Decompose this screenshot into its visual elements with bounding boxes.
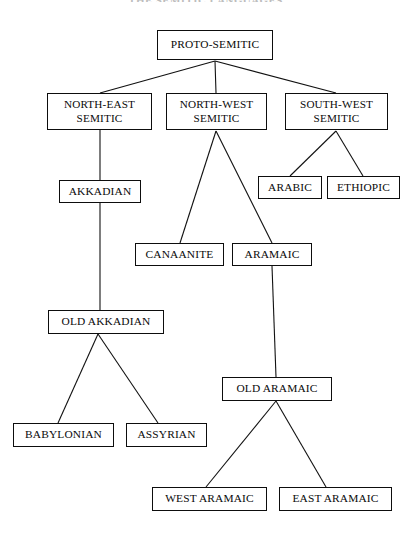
node-babylonian: BABYLONIAN — [13, 423, 114, 447]
node-canaanite: CANAANITE — [135, 243, 224, 266]
node-arabic: ARABIC — [258, 176, 322, 199]
tree-edge-aramaic-to-old-aramaic — [272, 266, 276, 377]
node-proto-semitic: PROTO-SEMITIC — [157, 30, 273, 60]
tree-edge-south-west-to-arabic — [290, 131, 336, 176]
node-ethiopic: ETHIOPIC — [327, 176, 400, 199]
tree-edge-old-akkadian-to-babylonian — [58, 334, 98, 423]
node-aramaic: ARAMAIC — [232, 243, 312, 266]
node-north-west: NORTH-WEST SEMITIC — [166, 93, 267, 130]
tree-connectors — [0, 0, 411, 542]
node-old-aramaic: OLD ARAMAIC — [222, 377, 332, 401]
tree-edge-proto-semitic-to-south-west — [215, 61, 336, 93]
node-south-west: SOUTH-WEST SEMITIC — [285, 93, 388, 130]
node-north-east: NORTH-EAST SEMITIC — [47, 93, 152, 130]
tree-edge-proto-semitic-to-north-east — [100, 61, 215, 93]
node-assyrian: ASSYRIAN — [126, 423, 207, 447]
tree-edge-old-akkadian-to-assyrian — [98, 334, 158, 423]
semitic-language-tree-figure: THE SEMITIC LANGUAGES PROTO-SEMITICNORTH… — [0, 0, 411, 542]
node-west-aramaic: WEST ARAMAIC — [152, 487, 267, 511]
tree-edge-north-west-to-canaanite — [180, 131, 216, 243]
tree-edge-old-aramaic-to-west-aramaic — [206, 401, 276, 487]
node-akkadian: AKKADIAN — [59, 180, 141, 203]
tree-edge-south-west-to-ethiopic — [336, 131, 363, 176]
node-old-akkadian: OLD AKKADIAN — [48, 310, 164, 334]
tree-edge-proto-semitic-to-north-west — [215, 61, 216, 93]
tree-edge-old-aramaic-to-east-aramaic — [276, 401, 326, 487]
node-east-aramaic: EAST ARAMAIC — [279, 487, 392, 511]
